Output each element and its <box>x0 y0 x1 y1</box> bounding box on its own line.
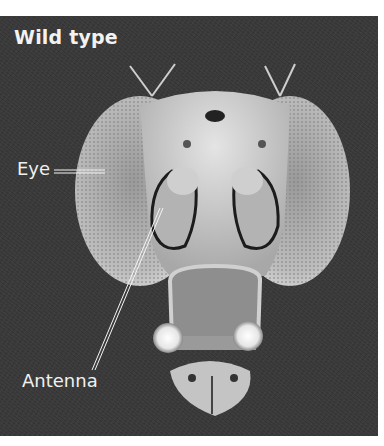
left-palp <box>153 323 183 353</box>
labellum <box>170 361 251 416</box>
figure-title: Wild type <box>14 26 118 48</box>
micrograph-figure: Wild type Eye Antenna <box>0 16 378 436</box>
eye-label: Eye <box>17 158 50 179</box>
right-palp <box>233 321 263 351</box>
antenna-label: Antenna <box>22 370 98 391</box>
